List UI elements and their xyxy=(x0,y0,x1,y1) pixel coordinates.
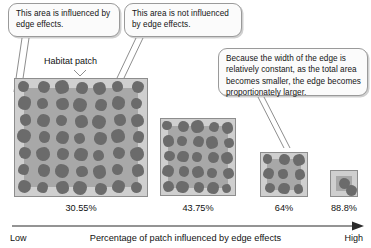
habitat-blob xyxy=(76,166,88,178)
habitat-blob xyxy=(56,181,68,193)
habitat-blob xyxy=(76,82,88,94)
habitat-patch-3 xyxy=(260,152,308,197)
habitat-blob xyxy=(92,115,106,129)
callout-edge-influenced: This area is influenced by edge effects. xyxy=(8,3,120,37)
habitat-blob xyxy=(207,182,219,194)
callout-edge-not-influenced-text: This area is not influenced by edge effe… xyxy=(132,9,229,29)
axis-arrow xyxy=(12,222,364,231)
habitat-blob xyxy=(94,132,106,144)
habitat-blob xyxy=(163,181,174,192)
habitat-blob xyxy=(57,148,69,160)
habitat-blob xyxy=(74,148,87,161)
habitat-blob xyxy=(114,114,126,126)
habitat-blob xyxy=(37,114,50,127)
habitat-blob xyxy=(73,181,87,195)
habitat-blob xyxy=(222,184,232,194)
habitat-blob xyxy=(278,169,287,178)
habitat-blob xyxy=(132,81,144,93)
patch-2-percentage: 43.75% xyxy=(158,203,238,213)
habitat-blob xyxy=(74,133,85,144)
habitat-blob xyxy=(209,122,219,132)
habitat-blob xyxy=(206,136,218,148)
habitat-patch-label: Habitat patch xyxy=(44,56,97,66)
habitat-blob xyxy=(19,147,31,159)
habitat-blob xyxy=(93,82,106,95)
callout-edge-proportion-text: Because the width of the edge is relativ… xyxy=(226,54,361,97)
habitat-blob xyxy=(346,185,357,196)
habitat-blob xyxy=(75,115,87,127)
habitat-label-pointer xyxy=(74,70,86,76)
habitat-blob xyxy=(37,98,48,109)
patch-1-blobs xyxy=(15,79,147,196)
habitat-blob xyxy=(20,114,32,126)
habitat-blob xyxy=(293,154,305,166)
habitat-blob xyxy=(177,151,189,163)
habitat-blob xyxy=(178,121,189,132)
habitat-patch-4 xyxy=(330,170,358,197)
patch-3-blobs xyxy=(261,153,307,196)
habitat-blob xyxy=(191,120,203,132)
habitat-blob xyxy=(263,154,272,163)
habitat-blob xyxy=(132,164,144,176)
habitat-blob xyxy=(39,131,51,143)
habitat-patch-2 xyxy=(160,118,236,196)
habitat-blob xyxy=(162,165,174,177)
habitat-blob xyxy=(222,122,234,134)
habitat-blob xyxy=(164,151,174,161)
habitat-blob xyxy=(55,164,69,178)
habitat-blob xyxy=(18,180,31,193)
habitat-blob xyxy=(193,136,204,147)
habitat-patch-1 xyxy=(14,78,148,197)
habitat-blob xyxy=(133,131,145,143)
habitat-blob xyxy=(93,165,106,178)
habitat-blob xyxy=(294,184,303,193)
habitat-blob xyxy=(111,129,125,143)
habitat-blob xyxy=(113,147,125,159)
habitat-blob xyxy=(38,81,50,93)
habitat-blob xyxy=(18,96,31,109)
habitat-blob xyxy=(131,182,142,193)
habitat-blob xyxy=(163,135,175,147)
habitat-blob xyxy=(162,121,172,131)
habitat-blob xyxy=(55,80,69,94)
habitat-blob xyxy=(131,114,144,127)
diagram-canvas: This area is influenced by edge effects.… xyxy=(0,0,371,248)
habitat-blob xyxy=(177,136,187,146)
habitat-blob xyxy=(224,138,234,148)
habitat-blob xyxy=(56,115,67,126)
habitat-blob xyxy=(130,147,144,161)
callout-edge-influenced-text: This area is influenced by edge effects. xyxy=(16,9,110,29)
habitat-blob xyxy=(36,147,50,161)
habitat-blob xyxy=(73,98,87,112)
habitat-blob xyxy=(131,98,142,109)
habitat-blob xyxy=(194,182,204,192)
habitat-blob xyxy=(207,168,217,178)
habitat-blob xyxy=(18,81,29,92)
habitat-blob xyxy=(278,183,289,194)
habitat-blob xyxy=(295,169,306,180)
habitat-blob xyxy=(223,168,234,179)
habitat-blob xyxy=(95,183,107,195)
habitat-blob xyxy=(176,181,188,193)
habitat-blob xyxy=(17,129,31,143)
habitat-blob xyxy=(279,154,290,165)
callout-edge-proportion: Because the width of the edge is relativ… xyxy=(218,48,368,96)
habitat-blob xyxy=(18,164,29,175)
callout-edge-not-influenced: This area is not influenced by edge effe… xyxy=(124,3,242,37)
habitat-blob xyxy=(263,168,274,179)
habitat-blob xyxy=(221,152,233,164)
patch-1-percentage: 30.55% xyxy=(41,203,121,213)
habitat-blob xyxy=(56,131,69,144)
patch-2-blobs xyxy=(161,119,235,195)
habitat-blob xyxy=(38,164,50,176)
axis-high-label: High xyxy=(344,233,363,243)
habitat-blob xyxy=(112,164,123,175)
habitat-blob xyxy=(179,166,189,176)
habitat-blob xyxy=(192,166,204,178)
patch-4-blobs xyxy=(331,171,357,196)
axis-caption: Percentage of patch influenced by edge e… xyxy=(0,233,371,243)
habitat-blob xyxy=(112,96,125,109)
habitat-blob xyxy=(93,150,104,161)
habitat-blob xyxy=(208,152,219,163)
habitat-blob xyxy=(56,98,68,110)
